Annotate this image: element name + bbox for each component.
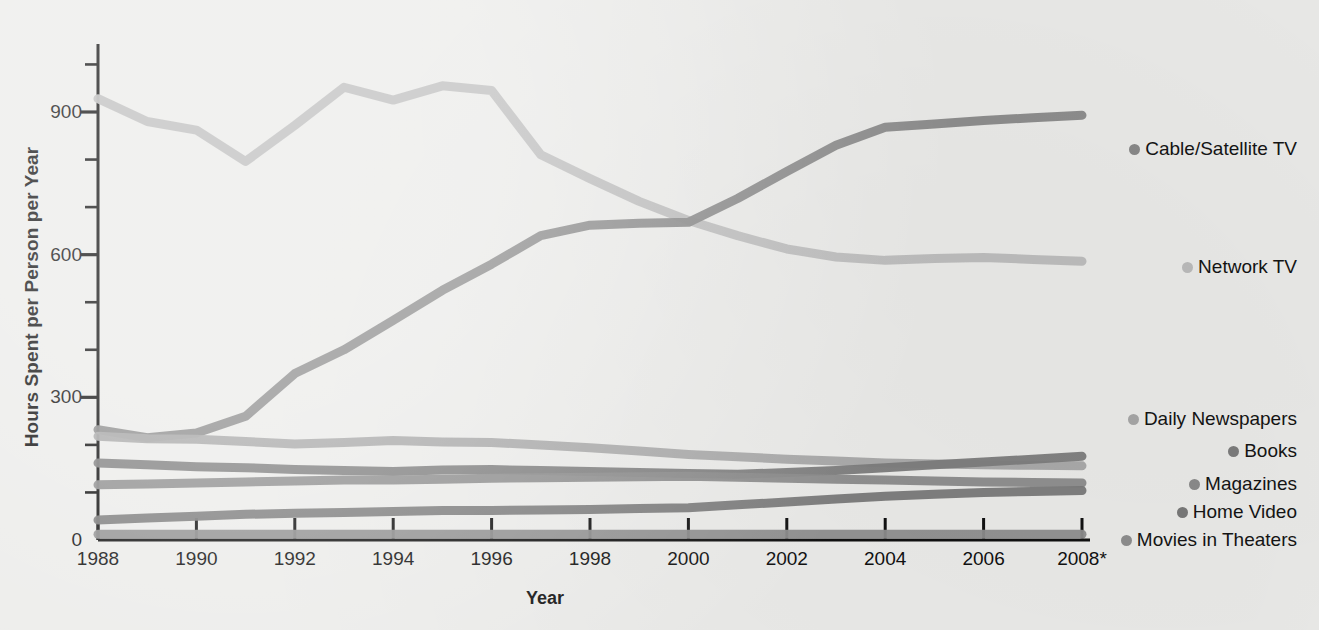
- legend-color-dot-icon: [1129, 144, 1140, 155]
- legend-item[interactable]: Magazines: [1189, 473, 1297, 495]
- legend-item-label: Books: [1244, 440, 1297, 462]
- legend-color-dot-icon: [1121, 535, 1132, 546]
- legend-item-label: Network TV: [1198, 256, 1297, 278]
- x-tick-label: 1992: [274, 548, 316, 570]
- legend-item[interactable]: Movies in Theaters: [1121, 529, 1297, 551]
- chart-container: 0300600900 19881990199219941996199820002…: [0, 0, 1319, 630]
- legend-item-label: Daily Newspapers: [1144, 408, 1297, 430]
- legend-item[interactable]: Home Video: [1177, 501, 1297, 523]
- legend-item[interactable]: Daily Newspapers: [1128, 408, 1297, 430]
- legend-item[interactable]: Cable/Satellite TV: [1129, 138, 1297, 160]
- x-axis-title: Year: [0, 588, 1090, 609]
- legend-color-dot-icon: [1177, 507, 1188, 518]
- x-tick-label: 2002: [766, 548, 808, 570]
- y-axis-title: Hours Spent per Person per Year: [21, 87, 43, 507]
- x-tick-label: 2006: [962, 548, 1004, 570]
- legend-color-dot-icon: [1228, 446, 1239, 457]
- x-tick-label: 1998: [569, 548, 611, 570]
- legend-item-label: Cable/Satellite TV: [1145, 138, 1297, 160]
- x-tick-label: 1988: [77, 548, 119, 570]
- legend-item-label: Magazines: [1205, 473, 1297, 495]
- legend-color-dot-icon: [1189, 479, 1200, 490]
- legend-item[interactable]: Books: [1228, 440, 1297, 462]
- legend-color-dot-icon: [1128, 414, 1139, 425]
- legend-item-label: Movies in Theaters: [1137, 529, 1297, 551]
- chart-legend: Cable/Satellite TVNetwork TVDaily Newspa…: [1090, 0, 1319, 630]
- x-tick-label: 2000: [667, 548, 709, 570]
- x-tick-label: 1990: [175, 548, 217, 570]
- legend-item-label: Home Video: [1193, 501, 1297, 523]
- x-tick-label: 1994: [372, 548, 414, 570]
- x-tick-label: 2004: [864, 548, 906, 570]
- legend-item[interactable]: Network TV: [1182, 256, 1297, 278]
- legend-color-dot-icon: [1182, 262, 1193, 273]
- x-tick-label: 1996: [470, 548, 512, 570]
